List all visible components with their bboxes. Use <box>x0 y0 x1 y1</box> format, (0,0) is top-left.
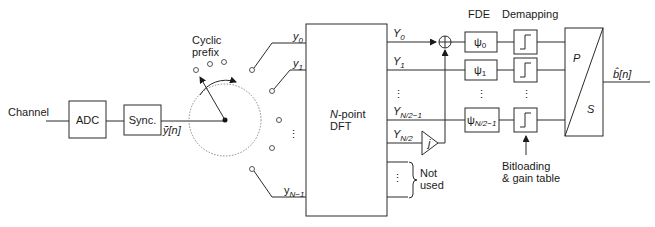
YN2-label: YN/2 <box>393 128 413 143</box>
not-used-label-2: used <box>420 179 444 191</box>
Y1-label: Y1 <box>393 55 405 70</box>
output-signal: b̂[n] <box>613 67 632 80</box>
cp-contact <box>208 62 213 67</box>
contact-mid2 <box>270 146 275 151</box>
ps-s-label: S <box>587 103 595 115</box>
demap-ellipsis: ⋮ <box>521 88 532 100</box>
contact-y0 <box>250 68 255 73</box>
fde-ellipsis: ⋮ <box>476 88 487 100</box>
sync-label: Sync. <box>129 114 157 126</box>
cp-contact <box>222 60 227 65</box>
inputs-ellipsis: ⋮ <box>288 128 299 140</box>
YN21-label: YN/2−1 <box>393 105 422 120</box>
bitloading-label-2: & gain table <box>502 172 560 184</box>
ps-p-label: P <box>573 52 581 64</box>
feedback-line <box>438 50 445 143</box>
not-used-brace <box>409 162 417 198</box>
rotation-arrow <box>200 80 236 95</box>
contact-y1 <box>270 89 275 94</box>
outputs-ellipsis: ⋮ <box>393 88 404 100</box>
demapping-header: Demapping <box>502 8 558 20</box>
sync-out-signal: ỹ[n] <box>162 124 182 136</box>
cyclic-prefix-label-2: prefix <box>192 46 219 58</box>
Y0-label: Y0 <box>393 27 405 42</box>
contact-mid <box>277 118 282 123</box>
fde-header: FDE <box>468 8 490 20</box>
channel-label: Channel <box>8 106 49 118</box>
bitloading-label-1: Bitloading <box>502 160 550 172</box>
contact-yN1 <box>250 167 255 172</box>
wire-y1 <box>274 70 306 89</box>
cyclic-prefix-label-1: Cyclic <box>192 34 222 46</box>
cp-contact <box>194 68 199 73</box>
dft-label-2: DFT <box>330 120 352 132</box>
not-used-label-1: Not <box>420 167 437 179</box>
unused-ellipsis: ⋮ <box>392 172 403 184</box>
ofdm-receiver-diagram: Channel ADC Sync. ỹ[n] Cyclic prefix ⋮ y… <box>0 0 655 227</box>
dft-label-1: N-point <box>330 108 365 120</box>
adc-label: ADC <box>76 114 99 126</box>
